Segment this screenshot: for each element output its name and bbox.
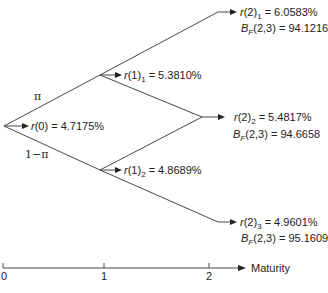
rate-args: (0) <box>35 120 48 132</box>
rate-args: (1) <box>128 164 141 176</box>
prob-up-label: π <box>34 90 41 103</box>
bond-value: = 95.1609 <box>279 232 328 244</box>
rate-args: (2) <box>244 6 257 18</box>
t2-rate-2-label: r(2)2 = 5.4817% <box>234 111 312 124</box>
bond-value: = 94.6658 <box>271 128 320 140</box>
t1-rate-down-label: r(1)2 = 4.8689% <box>124 164 202 177</box>
rate-sub: 1 <box>141 75 145 84</box>
axis-label-maturity: Maturity <box>251 262 290 275</box>
bond-args: (2,3) <box>245 128 268 140</box>
rate-value: = 5.4817% <box>259 111 312 123</box>
rate-sub: 1 <box>257 12 261 21</box>
axis-tick-1: 1 <box>101 270 107 283</box>
rate-args: (2) <box>238 111 251 123</box>
rate-sub: 2 <box>141 170 145 179</box>
rate-sub: 2 <box>251 117 255 126</box>
t2-rate-1-label: r(2)1 = 6.0583% <box>240 6 318 19</box>
t2-rate-3-label: r(2)3 = 4.9601% <box>240 216 318 229</box>
rate-args: (2) <box>244 216 257 228</box>
rate-value: = 4.9601% <box>265 216 318 228</box>
rate-sub: 3 <box>257 222 261 231</box>
rate-value: = 5.3810% <box>149 69 202 81</box>
t2-bond-1-label: BF(2,3) = 94.1216 <box>241 22 328 35</box>
rate-value: = 4.7175% <box>51 120 104 132</box>
axis-tick-0: 0 <box>1 270 7 283</box>
t1-rate-up-label: r(1)1 = 5.3810% <box>124 69 202 82</box>
rate-value: = 4.8689% <box>149 164 202 176</box>
t2-bond-2-label: BF(2,3) = 94.6658 <box>233 128 320 141</box>
bond-args: (2,3) <box>253 232 276 244</box>
bond-args: (2,3) <box>253 22 276 34</box>
rate-value: = 6.0583% <box>265 6 318 18</box>
prob-down-label: 1−π <box>25 148 48 161</box>
t2-bond-3-label: BF(2,3) = 95.1609 <box>241 232 328 245</box>
axis-tick-2: 2 <box>206 270 212 283</box>
rate-args: (1) <box>128 69 141 81</box>
root-rate-label: r(0) = 4.7175% <box>31 120 104 133</box>
bond-value: = 94.1216 <box>279 22 328 34</box>
